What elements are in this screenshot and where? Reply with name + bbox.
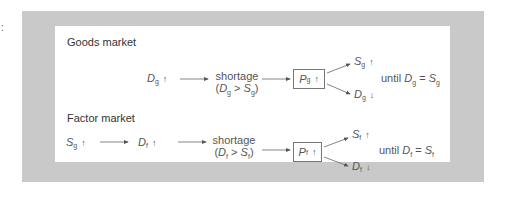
- up-arrow-icon: ↑: [314, 74, 319, 84]
- factor-supply-start: Sg↑: [66, 136, 86, 149]
- factor-shortage: shortage (Df > Sf): [208, 134, 260, 163]
- arrow-goods-down: [327, 84, 350, 94]
- down-arrow-icon: ↓: [370, 90, 375, 100]
- goods-shortage-condition: (Dg > Sg): [212, 82, 262, 99]
- goods-shortage: shortage (Dg > Sg): [212, 70, 262, 99]
- factor-demand-mid: Df↑: [138, 136, 156, 149]
- flow-arrows: [0, 0, 505, 210]
- arrow-factor-up: [324, 138, 348, 147]
- up-arrow-icon: ↑: [163, 74, 168, 84]
- arrow-factor-down: [324, 157, 348, 166]
- goods-supply-up: Sg↑: [354, 55, 374, 68]
- goods-until-condition: until Dg = Sg: [381, 72, 440, 89]
- goods-demand-start: Dg↑: [147, 72, 167, 85]
- factor-shortage-condition: (Df > Sf): [208, 146, 260, 163]
- arrow-goods-up: [327, 64, 350, 73]
- factor-supply-up: Sf↑: [352, 128, 370, 141]
- factor-price-box: Pf↑: [293, 142, 322, 162]
- up-arrow-icon: ↑: [312, 147, 317, 157]
- factor-market-title: Factor market: [67, 112, 135, 124]
- factor-demand-down: Df↓: [352, 160, 370, 173]
- up-arrow-icon: ↑: [152, 138, 157, 148]
- up-arrow-icon: ↑: [365, 130, 370, 140]
- up-arrow-icon: ↑: [81, 138, 86, 148]
- goods-demand-down: Dg↓: [354, 88, 374, 101]
- goods-price-box: Pg↑: [293, 69, 325, 89]
- goods-market-title: Goods market: [67, 36, 136, 48]
- factor-until-condition: until Df = Sf: [379, 144, 434, 161]
- up-arrow-icon: ↑: [369, 57, 374, 67]
- down-arrow-icon: ↓: [366, 162, 371, 172]
